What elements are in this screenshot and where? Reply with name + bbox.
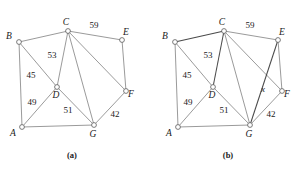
vertex-node-D [55, 85, 60, 90]
edge-CE [68, 31, 122, 40]
vertex-label-F: F [283, 89, 290, 99]
edge-CE [224, 31, 278, 40]
vertex-node-C [66, 29, 71, 34]
edge-AG [178, 125, 250, 127]
edge-BD [19, 42, 57, 87]
edge-weight-AD: 49 [184, 97, 194, 107]
edge-weight-CD: 53 [204, 50, 214, 60]
edge-FG [94, 91, 126, 125]
vertex-label-A: A [165, 128, 172, 138]
edge-weight-BD: 45 [183, 70, 193, 80]
vertex-node-C [222, 29, 227, 34]
vertex-node-D [211, 85, 216, 90]
vertex-node-G [92, 123, 97, 128]
graph-panel-a: 494553595142ABCDEFG [6, 17, 134, 139]
edge-weight-CE: 59 [246, 20, 256, 30]
graph-panel-b: 4945535951x42ABCDEFG [162, 17, 290, 139]
edge-CF [68, 31, 126, 91]
vertex-label-B: B [162, 31, 168, 41]
vertex-node-B [173, 40, 178, 45]
vertex-node-A [176, 125, 181, 130]
panel-a-caption: (a) [52, 150, 92, 160]
edge-AG [22, 125, 94, 127]
edge-AB [175, 42, 178, 127]
vertex-node-E [120, 38, 125, 43]
edge-weight-FG: 42 [111, 109, 120, 119]
edge-BC [19, 31, 68, 42]
graph-diagram-svg: 494553595142ABCDEFG4945535951x42ABCDEFG [0, 0, 294, 175]
edge-weight-DG: 51 [64, 105, 73, 115]
vertex-label-D: D [208, 90, 216, 100]
edge-CF [224, 31, 282, 91]
edge-weight-AD: 49 [28, 97, 38, 107]
figure-container: 494553595142ABCDEFG4945535951x42ABCDEFG … [0, 0, 294, 175]
edge-weight-EG: x [260, 84, 265, 94]
vertex-label-C: C [63, 17, 70, 27]
edge-EF [122, 40, 126, 91]
vertex-label-E: E [122, 27, 129, 37]
vertex-node-E [276, 38, 281, 43]
edge-CD [57, 31, 68, 87]
vertex-label-G: G [90, 129, 97, 139]
vertex-node-B [17, 40, 22, 45]
edge-EF [278, 40, 282, 91]
edge-weight-CE: 59 [90, 20, 100, 30]
vertex-label-D: D [52, 90, 60, 100]
edge-BD [175, 42, 213, 87]
vertex-label-F: F [127, 89, 134, 99]
edge-weight-BD: 45 [27, 70, 37, 80]
vertex-label-G: G [246, 129, 253, 139]
vertex-node-G [248, 123, 253, 128]
vertex-node-A [20, 125, 25, 130]
vertex-label-E: E [278, 27, 285, 37]
vertex-label-C: C [219, 17, 226, 27]
edge-weight-DG: 51 [220, 105, 229, 115]
edge-FG [250, 91, 282, 125]
edge-BC [175, 31, 224, 42]
panel-b-caption: (b) [208, 150, 248, 160]
vertex-label-A: A [9, 128, 16, 138]
edge-weight-CD: 53 [48, 50, 58, 60]
edge-AB [19, 42, 22, 127]
edge-weight-FG: 42 [267, 109, 276, 119]
vertex-label-B: B [6, 31, 12, 41]
edge-CD [213, 31, 224, 87]
